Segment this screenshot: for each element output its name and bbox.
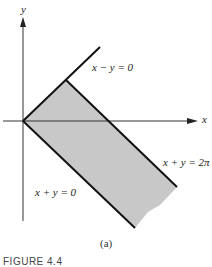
label-x-plus-y-2pi: x + y = 2π [163,157,210,168]
label-x-plus-y-0: x + y = 0 [35,187,76,198]
subcaption: (a) [100,238,112,249]
shaded-region [23,80,177,228]
x-axis-label: x [202,114,207,125]
y-axis-arrow-icon [20,17,26,27]
figure-caption: FIGURE 4.4 [3,257,62,267]
label-x-minus-y: x − y = 0 [92,62,133,73]
y-axis-label: y [21,4,26,15]
x-axis-arrow-icon [187,118,198,124]
